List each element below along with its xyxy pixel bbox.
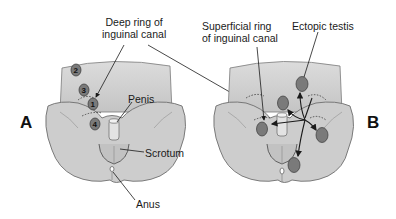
label-penis: Penis [128,93,154,105]
label-anus: Anus [136,198,160,210]
label-deep-ring-line2: inguinal canal [102,28,166,40]
svg-text:2: 2 [74,66,79,75]
label-superficial-ring: Superficial ring of inguinal canal [202,20,278,44]
label-deep-ring-line1: Deep ring of [102,16,166,28]
ectopic-testis-femoral [316,128,328,143]
diagram-canvas: 2 3 1 4 [0,0,396,219]
position-2: 2 [71,64,81,76]
position-1: 1 [88,98,98,110]
label-deep-ring: Deep ring of inguinal canal [102,16,166,40]
svg-text:3: 3 [82,86,87,95]
ectopic-testis-perineal [288,158,300,173]
label-superficial-ring-line2: of inguinal canal [202,32,278,44]
panel-letter-b: B [367,113,379,133]
label-ectopic-testis: Ectopic testis [292,20,354,32]
panel-b-body [214,61,354,182]
position-4: 4 [90,118,100,130]
label-superficial-ring-line1: Superficial ring [202,20,278,32]
ectopic-testis-pubic [278,96,289,110]
panel-a-body [46,61,186,182]
label-scrotum: Scrotum [145,147,184,159]
svg-text:4: 4 [93,120,98,129]
ectopic-testis-penile [257,122,268,136]
svg-text:1: 1 [91,100,96,109]
ectopic-testis-abdominal [296,77,308,92]
panel-letter-a: A [20,113,32,133]
position-3: 3 [79,84,89,96]
